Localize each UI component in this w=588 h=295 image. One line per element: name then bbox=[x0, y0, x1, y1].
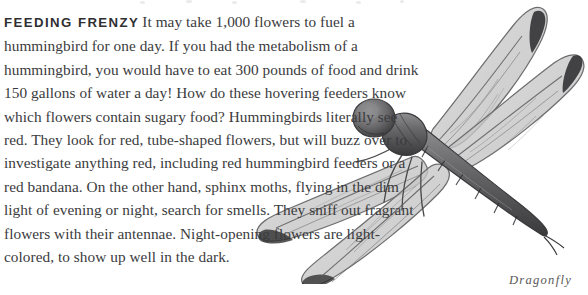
wing-upper-right-inner bbox=[444, 55, 583, 170]
figure-caption: Dragonfly bbox=[509, 273, 572, 288]
book-page: FEEDING FRENZYIt may take 1,000 flowers … bbox=[0, 0, 588, 295]
dragonfly-abdomen bbox=[410, 127, 564, 255]
wing-upper-right bbox=[431, 8, 547, 149]
scan-artifact-row bbox=[0, 0, 588, 8]
article-body: It may take 1,000 flowers to fuel a humm… bbox=[4, 13, 418, 265]
article-heading: FEEDING FRENZY bbox=[4, 15, 139, 30]
article-text: FEEDING FRENZYIt may take 1,000 flowers … bbox=[4, 10, 424, 268]
